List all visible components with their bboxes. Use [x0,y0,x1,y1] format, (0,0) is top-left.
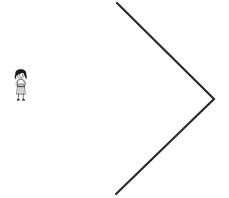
left-eye [19,74,20,75]
right-eye [22,74,23,75]
right-shoe [22,99,25,100]
scene-illustration [0,0,229,198]
left-shoe [17,99,20,100]
folded-hands [19,84,24,85]
canvas-background [0,0,229,198]
drawing-canvas: Line drawing: child figure facing a larg… [0,0,229,198]
